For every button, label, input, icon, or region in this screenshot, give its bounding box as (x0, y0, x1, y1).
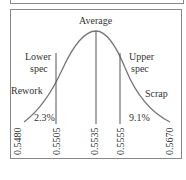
lower-spec-label-line1: Lower (25, 52, 51, 62)
scrap-percent: 9.1% (129, 113, 150, 123)
scrap-label: Scrap (145, 89, 168, 99)
rework-label: Rework (11, 86, 43, 96)
x-tick-2: 0.5535 (90, 128, 100, 156)
rework-percent: 2.3% (34, 113, 55, 123)
normal-curve (24, 31, 170, 122)
x-tick-1: 0.5505 (52, 128, 62, 156)
x-tick-4: 0.5670 (165, 128, 175, 156)
x-tick-3: 0.5555 (116, 128, 126, 156)
upper-spec-label-line2: spec (131, 64, 149, 74)
x-tick-0: 0.5480 (13, 128, 23, 156)
lower-spec-label-line2: spec (30, 64, 48, 74)
upper-spec-label-line1: Upper (129, 52, 154, 62)
average-label: Average (79, 16, 112, 26)
